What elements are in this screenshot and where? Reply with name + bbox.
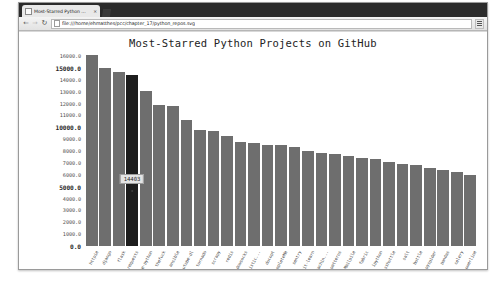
- y-tick-label: 13000.0: [60, 89, 81, 95]
- y-tick-label: 14000.0: [60, 77, 81, 83]
- page-icon: [25, 8, 32, 15]
- x-tick-label: sshuttle: [383, 250, 397, 269]
- bar-tooltip: 14403: [120, 174, 144, 184]
- bar[interactable]: [140, 91, 152, 246]
- bar[interactable]: [167, 106, 179, 246]
- tab-strip: Most-Starred Python ... ×: [19, 3, 487, 17]
- bar[interactable]: [343, 156, 355, 246]
- forward-icon[interactable]: →: [31, 19, 39, 28]
- page-viewport: Most-Starred Python Projects on GitHub 1…: [19, 32, 487, 269]
- x-tick-label: fabric: [358, 250, 369, 266]
- browser-toolbar: ← → ↻ file:///home/ehmatthes/pcc/chapter…: [19, 17, 487, 31]
- x-tick-label: django: [101, 250, 112, 266]
- y-tick-label: 10000.0: [56, 124, 81, 131]
- y-tick-label: 4000.0: [63, 196, 81, 202]
- y-tick-label: 5000.0: [59, 183, 81, 190]
- reload-icon[interactable]: ↻: [40, 19, 49, 28]
- tooltip-anchor-dot: [131, 190, 133, 192]
- y-tick-label: 11000.0: [60, 112, 81, 118]
- bar[interactable]: [383, 162, 395, 246]
- x-tick-label: scrapy: [210, 250, 221, 266]
- url-text: file:///home/ehmatthes/pcc/chapter_17/py…: [62, 21, 195, 26]
- tab-python-repos[interactable]: Most-Starred Python ... ×: [22, 5, 100, 17]
- y-tick-label: 7000.0: [63, 160, 81, 166]
- x-axis: httpiedjangoflaskrequestsawesome-pythont…: [85, 248, 477, 269]
- y-tick-label: 1000.0: [63, 231, 81, 237]
- bar[interactable]: [181, 120, 193, 246]
- bar[interactable]: [302, 151, 314, 246]
- bar[interactable]: [113, 72, 125, 246]
- bar[interactable]: [126, 75, 138, 246]
- x-tick-label: youtube-dl: [178, 250, 194, 269]
- screenshot-root: Most-Starred Python ... × ← → ↻ file:///…: [0, 0, 504, 296]
- x-tick-label: celery: [453, 250, 464, 266]
- x-tick-label: flask: [116, 250, 126, 263]
- bar[interactable]: [235, 142, 247, 246]
- y-tick-label: 12000.0: [60, 101, 81, 107]
- plot-area: 14403: [85, 56, 477, 246]
- plot-wrapper: 16000.015000.014000.013000.012000.011000…: [19, 32, 487, 269]
- browser-window: Most-Starred Python ... × ← → ↻ file:///…: [18, 2, 488, 270]
- bar[interactable]: [99, 68, 111, 246]
- x-tick-label: bottle: [412, 250, 423, 266]
- x-tick-label: httpie: [88, 250, 99, 266]
- bar[interactable]: [208, 131, 220, 246]
- bar[interactable]: [356, 158, 368, 246]
- x-tick-label: pyspider: [424, 250, 438, 269]
- y-tick-label: 2000.0: [63, 219, 81, 225]
- address-bar[interactable]: file:///home/ehmatthes/pcc/chapter_17/py…: [51, 19, 472, 29]
- y-tick-label: 8000.0: [63, 148, 81, 154]
- bar[interactable]: [316, 153, 328, 246]
- x-tick-label: docopt: [264, 250, 275, 266]
- bar[interactable]: [464, 175, 476, 246]
- x-tick-label: salt: [401, 250, 410, 261]
- bar[interactable]: [262, 145, 274, 246]
- bar[interactable]: [275, 145, 287, 246]
- y-tick-label: 3000.0: [63, 207, 81, 213]
- x-tick-label: pandas: [439, 250, 450, 266]
- back-icon[interactable]: ←: [22, 19, 30, 28]
- x-tick-label: powerline: [462, 250, 477, 269]
- document-icon: [54, 20, 60, 27]
- x-tick-label: thefuck: [154, 250, 167, 268]
- bar[interactable]: [370, 159, 382, 246]
- bar[interactable]: [397, 164, 409, 246]
- y-tick-label: 0.0: [70, 243, 81, 250]
- y-tick-label: 6000.0: [63, 172, 81, 178]
- close-icon[interactable]: ×: [93, 9, 97, 14]
- y-axis: 16000.015000.014000.013000.012000.011000…: [35, 32, 81, 269]
- bar[interactable]: [329, 154, 341, 246]
- y-tick-label: 16000.0: [60, 53, 81, 59]
- tab-title: Most-Starred Python ...: [34, 9, 91, 14]
- x-tick-label: sentry: [291, 250, 302, 266]
- bar[interactable]: [86, 55, 98, 246]
- bar[interactable]: [289, 147, 301, 246]
- bar[interactable]: [451, 172, 463, 246]
- bar-series: [85, 56, 477, 246]
- bar[interactable]: [437, 170, 449, 246]
- x-tick-label: redis: [224, 250, 234, 263]
- x-tick-label: Mailpile: [343, 250, 357, 269]
- menu-icon[interactable]: [475, 19, 484, 29]
- bar[interactable]: [153, 105, 165, 246]
- bar-chart: Most-Starred Python Projects on GitHub 1…: [19, 32, 487, 269]
- bar[interactable]: [410, 165, 422, 246]
- bar[interactable]: [221, 136, 233, 246]
- bar[interactable]: [194, 130, 206, 246]
- x-tick-label: requests: [126, 250, 140, 269]
- new-tab-button[interactable]: [102, 9, 111, 17]
- x-tick-label: tornado: [195, 250, 208, 268]
- x-tick-label: ipython: [371, 250, 384, 268]
- bar[interactable]: [424, 168, 436, 246]
- x-tick-label: ansible: [168, 250, 181, 268]
- y-tick-label: 15000.0: [56, 64, 81, 71]
- y-tick-label: 9000.0: [63, 136, 81, 142]
- bar[interactable]: [248, 143, 260, 246]
